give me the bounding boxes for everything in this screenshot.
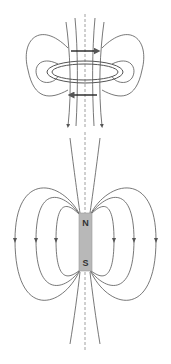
loop-field-line-3 bbox=[93, 18, 95, 126]
bar-magnet-panel bbox=[13, 132, 158, 352]
magnet-loop-right-3 bbox=[90, 206, 114, 275]
magnet-field-line-bottom-right bbox=[90, 272, 100, 344]
loop-field-line-4 bbox=[100, 22, 104, 126]
current-loop-panel bbox=[26, 14, 144, 128]
loop-field-line-2 bbox=[75, 18, 77, 126]
north-pole-label: N bbox=[82, 218, 89, 228]
magnet-loop-left-2 bbox=[36, 197, 80, 285]
loop-field-line-outer-left bbox=[26, 35, 68, 96]
loop-field-line-1 bbox=[66, 22, 70, 126]
magnet-loop-right-2 bbox=[90, 197, 134, 285]
magnet-field-line-top-left bbox=[70, 138, 80, 213]
south-pole-label: S bbox=[82, 258, 88, 268]
magnet-loop-left-3 bbox=[56, 206, 80, 275]
magnet-loop-right-1 bbox=[90, 188, 156, 300]
magnet-field-line-top-right bbox=[90, 138, 100, 213]
magnetic-field-diagram: N S bbox=[0, 0, 171, 364]
magnet-field-line-bottom-left bbox=[70, 272, 80, 344]
loop-field-line-outer-right bbox=[102, 35, 144, 96]
